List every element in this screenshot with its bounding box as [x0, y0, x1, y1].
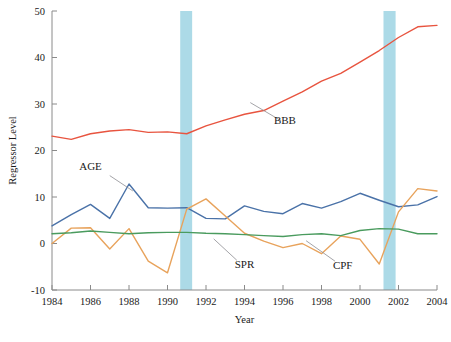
y-tick-label: -10 — [31, 285, 45, 296]
x-tick-label: 1990 — [157, 296, 178, 307]
x-tick-label: 2002 — [388, 296, 409, 307]
x-axis-title: Year — [235, 314, 255, 325]
x-tick-label: 1988 — [119, 296, 140, 307]
series-label-cpf: CPF — [333, 259, 353, 271]
x-tick-label: 2004 — [427, 296, 449, 307]
y-tick-label: 40 — [35, 52, 46, 63]
y-axis-title: Regressor Level — [7, 116, 18, 185]
x-tick-label: 1998 — [311, 296, 332, 307]
x-tick-label: 1996 — [273, 296, 294, 307]
x-tick-label: 1984 — [42, 296, 64, 307]
leader-line-cpf — [306, 241, 335, 261]
series-label-spr: SPR — [235, 258, 255, 270]
leader-line-age — [110, 176, 133, 191]
regressor-level-line-chart: -100102030405019841986198819901992199419… — [0, 0, 451, 342]
leader-line-spr — [214, 239, 237, 260]
y-tick-label: 0 — [40, 238, 45, 249]
y-tick-label: 20 — [35, 145, 46, 156]
y-tick-label: 30 — [35, 99, 46, 110]
x-tick-label: 2000 — [350, 296, 371, 307]
recession-band-1 — [180, 11, 192, 290]
x-tick-label: 1994 — [234, 296, 256, 307]
series-line-age — [52, 184, 437, 226]
series-label-bbb: BBB — [274, 114, 296, 126]
chart-figure: -100102030405019841986198819901992199419… — [0, 0, 451, 342]
x-tick-label: 1986 — [80, 296, 101, 307]
series-line-bbb — [52, 25, 437, 139]
series-label-age: AGE — [79, 160, 102, 172]
x-tick-label: 1992 — [196, 296, 217, 307]
y-tick-label: 10 — [35, 192, 46, 203]
y-tick-label: 50 — [35, 6, 46, 17]
